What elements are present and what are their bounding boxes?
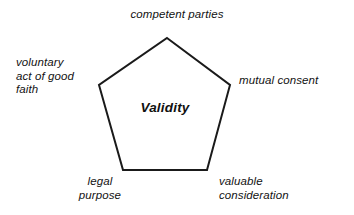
label-mutual-consent: mutual consent xyxy=(239,74,354,88)
center-label-validity: Validity xyxy=(99,100,231,115)
label-valuable-consideration: valuable consideration xyxy=(219,175,354,202)
diagram-canvas: competent parties voluntary act of good … xyxy=(0,0,354,215)
label-competent-parties: competent parties xyxy=(0,8,354,22)
label-voluntary-act-of-good-faith: voluntary act of good faith xyxy=(16,56,108,97)
label-legal-purpose: legal purpose xyxy=(52,175,148,202)
